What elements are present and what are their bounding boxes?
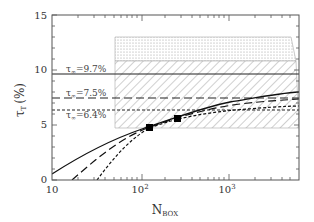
xtick-100: 102 [131,183,148,195]
ytick-15: 15 [34,10,47,21]
chart: τ∞=9.7% τ∞=7.5% τ∞=6.4% [0,0,314,222]
xtick-10: 10 [46,184,59,195]
x-axis-title: NBOX [152,203,178,218]
xtick-1000: 103 [218,183,235,195]
annotation-7-5: τ∞=7.5% [66,88,107,99]
ytick-5: 5 [41,119,47,130]
annotation-6-4: τ∞=6.4% [66,110,107,121]
ytick-10: 10 [34,64,47,75]
annotation-9-7: τ∞=9.7% [66,64,107,75]
hatched-region [115,61,299,128]
y-axis-title: τT(%) [13,83,28,117]
stippled-region [115,37,296,61]
data-point-1 [146,124,153,131]
data-point-2 [174,115,181,122]
